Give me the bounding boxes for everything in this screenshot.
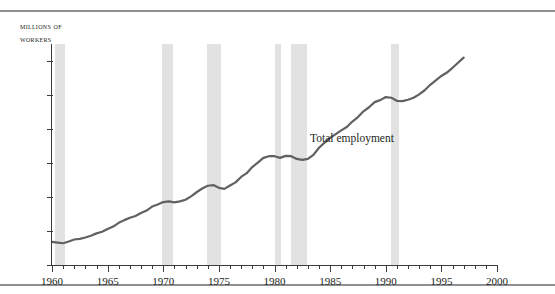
x-tick-minor xyxy=(252,265,253,269)
x-tick-minor xyxy=(341,265,342,269)
x-tick-major xyxy=(219,265,220,272)
series-svg xyxy=(52,44,497,265)
plot-area: 60708090100110120 1960196519701975198019… xyxy=(52,44,497,265)
x-tick-label: 1975 xyxy=(198,275,240,287)
x-tick-label: 1985 xyxy=(309,275,351,287)
x-tick-minor xyxy=(230,265,231,269)
x-tick-minor xyxy=(85,265,86,269)
x-tick-minor xyxy=(408,265,409,269)
x-tick-minor xyxy=(419,265,420,269)
x-tick-minor xyxy=(364,265,365,269)
x-tick-minor xyxy=(152,265,153,269)
x-tick-minor xyxy=(430,265,431,269)
x-tick-label: 1980 xyxy=(254,275,296,287)
x-tick-minor xyxy=(486,265,487,269)
x-tick-minor xyxy=(308,265,309,269)
x-tick-major xyxy=(386,265,387,272)
x-tick-major xyxy=(108,265,109,272)
series-lines xyxy=(52,44,497,265)
x-tick-major xyxy=(441,265,442,272)
x-tick-major xyxy=(163,265,164,272)
x-tick-minor xyxy=(97,265,98,269)
chart-figure: Millions of workers 60708090100110120 19… xyxy=(0,0,555,294)
y-axis-title-line-1: Millions of xyxy=(20,20,140,33)
x-tick-minor xyxy=(453,265,454,269)
series-label-total-employment: Total employment xyxy=(310,132,394,144)
x-tick-minor xyxy=(375,265,376,269)
x-tick-minor xyxy=(130,265,131,269)
x-tick-minor xyxy=(319,265,320,269)
y-tick-mark xyxy=(47,129,53,130)
x-tick-label: 1965 xyxy=(87,275,129,287)
x-tick-minor xyxy=(241,265,242,269)
x-tick-minor xyxy=(464,265,465,269)
y-tick-mark xyxy=(47,61,53,62)
x-tick-major xyxy=(52,265,53,272)
y-tick-mark xyxy=(47,95,53,96)
x-tick-minor xyxy=(141,265,142,269)
x-tick-minor xyxy=(208,265,209,269)
y-tick-mark xyxy=(47,231,53,232)
x-tick-minor xyxy=(63,265,64,269)
x-tick-label: 2000 xyxy=(476,275,518,287)
x-tick-minor xyxy=(297,265,298,269)
y-tick-mark xyxy=(47,163,53,164)
x-tick-minor xyxy=(263,265,264,269)
x-tick-minor xyxy=(286,265,287,269)
y-axis-title: Millions of workers xyxy=(20,20,140,45)
x-tick-minor xyxy=(397,265,398,269)
x-tick-major xyxy=(330,265,331,272)
x-tick-minor xyxy=(119,265,120,269)
x-tick-label: 1990 xyxy=(365,275,407,287)
y-tick-mark xyxy=(47,197,53,198)
x-tick-minor xyxy=(475,265,476,269)
x-tick-minor xyxy=(352,265,353,269)
x-tick-major xyxy=(497,265,498,272)
x-tick-label: 1995 xyxy=(420,275,462,287)
x-tick-label: 1960 xyxy=(31,275,73,287)
x-tick-major xyxy=(275,265,276,272)
x-tick-minor xyxy=(186,265,187,269)
x-tick-minor xyxy=(197,265,198,269)
x-tick-minor xyxy=(74,265,75,269)
x-tick-minor xyxy=(174,265,175,269)
top-divider-rule xyxy=(0,10,555,12)
x-tick-label: 1970 xyxy=(142,275,184,287)
series-line-total-employment xyxy=(52,58,464,244)
